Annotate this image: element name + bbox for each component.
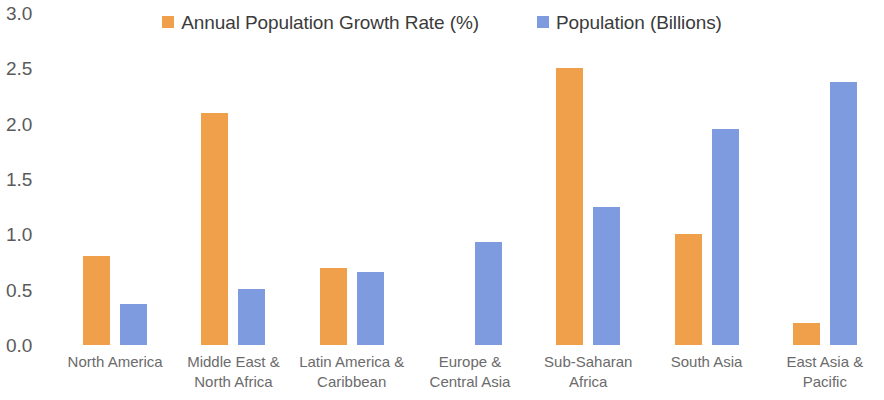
bar-group [56, 13, 174, 345]
bar-group [647, 13, 765, 345]
y-axis-tick-label: 2.5 [0, 59, 46, 78]
x-axis-tick-line: Europe & [413, 352, 527, 372]
x-axis-tick-label: South Asia [647, 352, 765, 400]
x-axis-tick-line: Latin America & [295, 352, 409, 372]
bar-population[interactable] [238, 289, 265, 345]
x-axis-tick-label: Europe &Central Asia [411, 352, 529, 400]
x-axis-tick-line: Middle East & [176, 352, 290, 372]
bar-group [293, 13, 411, 345]
y-axis-tick-label: 2.0 [0, 114, 46, 133]
bar-growth-rate[interactable] [675, 234, 702, 345]
x-axis-tick-label: Sub-SaharanAfrica [529, 352, 647, 400]
bar-group [766, 13, 884, 345]
bar-population[interactable] [357, 272, 384, 345]
y-axis-tick-label: 1.0 [0, 225, 46, 244]
x-axis-tick-line: Africa [531, 372, 645, 392]
x-axis-tick-line: East Asia & [768, 352, 882, 372]
y-axis-tick-label: 0.5 [0, 280, 46, 299]
bar-population[interactable] [120, 304, 147, 345]
bar-growth-rate[interactable] [556, 68, 583, 345]
y-axis-tick-label: 0.0 [0, 336, 46, 355]
x-axis-tick-label: Middle East &North Africa [174, 352, 292, 400]
x-axis-tick-line: North Africa [176, 372, 290, 392]
y-axis: 0.00.51.01.52.02.53.0 [0, 0, 56, 358]
x-axis-tick-line: Sub-Saharan [531, 352, 645, 372]
x-axis-tick-label: Latin America &Caribbean [293, 352, 411, 400]
plot-area [56, 13, 884, 345]
x-axis-tick-label: North America [56, 352, 174, 400]
bar-growth-rate[interactable] [793, 323, 820, 345]
x-axis: North AmericaMiddle East &North AfricaLa… [56, 352, 884, 400]
x-axis-tick-line: Central Asia [413, 372, 527, 392]
bar-group [529, 13, 647, 345]
x-axis-tick-line: Pacific [768, 372, 882, 392]
x-axis-tick-line: Caribbean [295, 372, 409, 392]
x-axis-tick-line: South Asia [649, 352, 763, 372]
bar-groups [56, 13, 884, 345]
bar-population[interactable] [593, 207, 620, 345]
bar-population[interactable] [830, 82, 857, 345]
bar-group [411, 13, 529, 345]
bar-population[interactable] [712, 129, 739, 345]
bar-growth-rate[interactable] [201, 113, 228, 345]
bar-group [174, 13, 292, 345]
y-axis-tick-label: 1.5 [0, 170, 46, 189]
bar-growth-rate[interactable] [320, 268, 347, 345]
bar-growth-rate[interactable] [83, 256, 110, 345]
y-axis-tick-label: 3.0 [0, 4, 46, 23]
x-axis-tick-line: North America [58, 352, 172, 372]
bar-population[interactable] [475, 242, 502, 345]
x-axis-tick-label: East Asia &Pacific [766, 352, 884, 400]
bar-chart: Annual Population Growth Rate (%) Popula… [0, 0, 884, 400]
